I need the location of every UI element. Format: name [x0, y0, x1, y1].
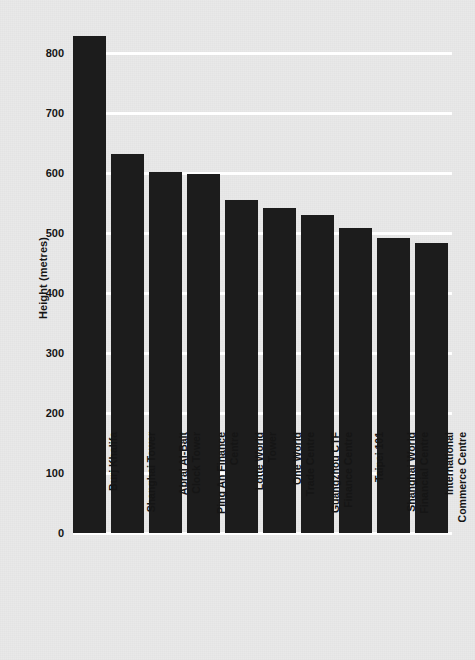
x-tick-label-line: Tower — [265, 432, 278, 542]
x-tick-label: Guangzhou CTFFinance Centre — [325, 432, 358, 542]
bar-chart-figure: Height (metres) 010020030040050060070080… — [0, 0, 475, 660]
x-tick-label-line: Finance Centre — [341, 432, 354, 542]
y-tick-label: 500 — [0, 227, 64, 239]
x-tick-label-line: Clock Tower — [189, 432, 202, 542]
x-tick-label: One WorldTrade Centre — [287, 432, 320, 542]
x-tick-label-line: Shanghai Tower — [145, 432, 158, 542]
x-tick-label-line: Burj Khalifa — [107, 432, 120, 542]
x-tick-label: Lotte WorldTower — [249, 432, 282, 542]
y-tick-label: 600 — [0, 167, 64, 179]
x-tick-label-line: Guangzhou CTF — [328, 432, 341, 542]
x-tick-label-line: Centre — [227, 432, 240, 542]
y-tick-label: 400 — [0, 287, 64, 299]
x-tick-label: Shanghai WorldFinancial Centre — [401, 432, 434, 542]
y-tick-label: 300 — [0, 347, 64, 359]
x-tick-label-line: Trade Centre — [303, 432, 316, 542]
x-tick-label: Abraj Al-BaitClock Tower — [173, 432, 206, 542]
x-tick-label-line: Abraj Al-Bait — [176, 432, 189, 542]
x-tick-label: Burj Khalifa — [97, 432, 130, 542]
x-tick-label-line: Commerce Centre — [455, 432, 468, 542]
y-tick-label: 100 — [0, 467, 64, 479]
x-tick-label-line: Ping An Finance — [214, 432, 227, 542]
x-tick-label-line: Taipei 101 — [373, 432, 386, 542]
y-tick-label: 200 — [0, 407, 64, 419]
x-tick-label-line: Shanghai World — [404, 432, 417, 542]
x-tick-label: InternationalCommerce Centre — [439, 432, 472, 542]
gridline — [73, 112, 452, 115]
gridline — [73, 52, 452, 55]
x-tick-label: Shanghai Tower — [135, 432, 168, 542]
x-tick-label-line: Lotte World — [252, 432, 265, 542]
x-tick-label-line: One World — [290, 432, 303, 542]
x-tick-label-line: International — [442, 432, 455, 542]
x-tick-label-line: Financial Centre — [417, 432, 430, 542]
y-tick-label: 0 — [0, 527, 64, 539]
x-tick-label: Taipei 101 — [363, 432, 396, 542]
x-tick-label: Ping An FinanceCentre — [211, 432, 244, 542]
y-tick-label: 700 — [0, 107, 64, 119]
y-tick-label: 800 — [0, 47, 64, 59]
y-axis-label: Height (metres) — [32, 23, 54, 533]
